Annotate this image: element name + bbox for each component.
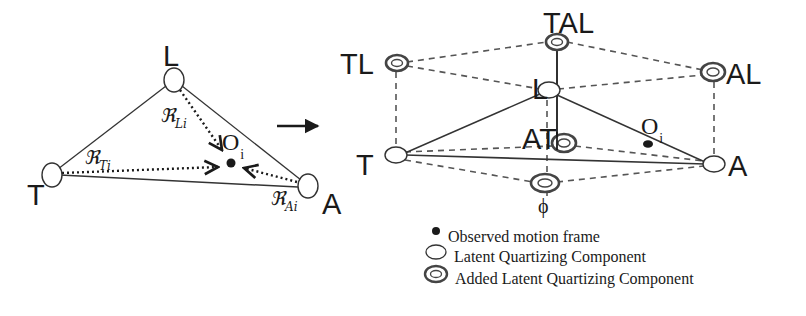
- node-label-T: T: [356, 149, 374, 181]
- relation-label-L: ℜLi: [160, 104, 187, 131]
- right-diagram: TL TAL AL AT ϕ L T A Oi: [340, 7, 761, 218]
- edge-T-A: [60, 175, 298, 187]
- observation-label: Oi: [641, 113, 663, 146]
- latent-node-A: [703, 156, 725, 172]
- observation-label: Oi: [222, 129, 244, 162]
- left-diagram: L T A Oi ℜLi ℜTi ℜAi: [27, 40, 342, 220]
- legend-label-latent: Latent Quartizing Component: [454, 248, 647, 266]
- relation-label-A: ℜAi: [270, 187, 298, 214]
- filled-dot-icon: [432, 227, 440, 235]
- legend-label-added: Added Latent Quartizing Component: [455, 270, 694, 288]
- dashed-edge-TL-TAL: [407, 42, 547, 62]
- edge-L-T: [405, 94, 540, 153]
- observed-frame-dot: [227, 159, 236, 168]
- edge-L-A: [182, 86, 301, 180]
- node-label-TL: TL: [340, 48, 374, 80]
- open-ellipse-icon: [426, 245, 446, 259]
- dashed-edge-phi-A: [557, 166, 704, 182]
- node-label-TAL: TAL: [543, 7, 594, 39]
- latent-node-T: [42, 163, 62, 187]
- relation-label-T: ℜTi: [84, 146, 111, 173]
- node-label-A: A: [728, 150, 748, 182]
- dashed-edge-TAL-AL: [567, 42, 703, 70]
- latent-node-A: [298, 174, 318, 198]
- dashed-edge-T-phi: [405, 160, 533, 182]
- dashed-edge-TL-L: [407, 66, 540, 89]
- node-label-L: L: [163, 40, 179, 72]
- edge-L-T: [58, 86, 166, 169]
- edge-T-A: [405, 155, 705, 164]
- figure-canvas: L T A Oi ℜLi ℜTi ℜAi: [0, 0, 806, 316]
- node-label-AL: AL: [726, 58, 761, 90]
- latent-node-T: [385, 147, 407, 163]
- added-node-AL: [701, 63, 725, 81]
- node-label-AT: AT: [522, 123, 557, 155]
- double-ring-icon: [425, 266, 447, 282]
- dashed-edge-L-AL: [558, 75, 703, 89]
- observed-frame-dot: [643, 140, 653, 148]
- legend: Observed motion frame Latent Quartizing …: [425, 227, 694, 288]
- node-label-T: T: [27, 179, 45, 211]
- node-label-phi: ϕ: [538, 195, 549, 218]
- legend-label-observed: Observed motion frame: [448, 228, 600, 245]
- node-label-L: L: [532, 73, 548, 105]
- added-node-phi: [531, 174, 559, 192]
- added-node-TL: [386, 55, 408, 71]
- node-label-A: A: [322, 188, 342, 220]
